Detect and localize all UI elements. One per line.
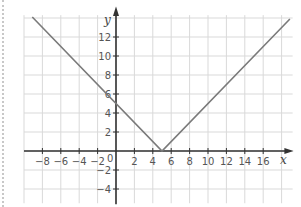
grid-lines [24, 15, 293, 203]
x-axis-label: x [280, 153, 287, 167]
x-tick-label: 14 [238, 156, 251, 167]
x-tick-label: 4 [150, 156, 156, 167]
function-graph: −8−6−4−20246810121416−4−224681012 x y [0, 0, 301, 207]
y-tick-label: 8 [105, 70, 111, 81]
y-tick-label: 2 [105, 127, 111, 138]
axes [24, 7, 294, 205]
y-tick-label: 10 [98, 51, 111, 62]
x-tick-label: −8 [35, 156, 50, 167]
x-tick-label: 6 [168, 156, 174, 167]
y-axis-arrow-icon [113, 7, 119, 17]
x-tick-label: 16 [257, 156, 270, 167]
y-tick-label: −2 [96, 165, 111, 176]
x-tick-label: 12 [220, 156, 233, 167]
y-tick-label: 4 [105, 108, 111, 119]
origin-label: 0 [107, 153, 113, 164]
x-tick-label: 2 [131, 156, 137, 167]
x-tick-label: 10 [202, 156, 215, 167]
x-tick-label: −4 [72, 156, 87, 167]
y-tick-label: −4 [96, 184, 111, 195]
y-axis-label: y [103, 13, 111, 27]
y-tick-label: 12 [98, 32, 111, 43]
x-tick-label: 8 [186, 156, 192, 167]
x-tick-label: −6 [53, 156, 68, 167]
